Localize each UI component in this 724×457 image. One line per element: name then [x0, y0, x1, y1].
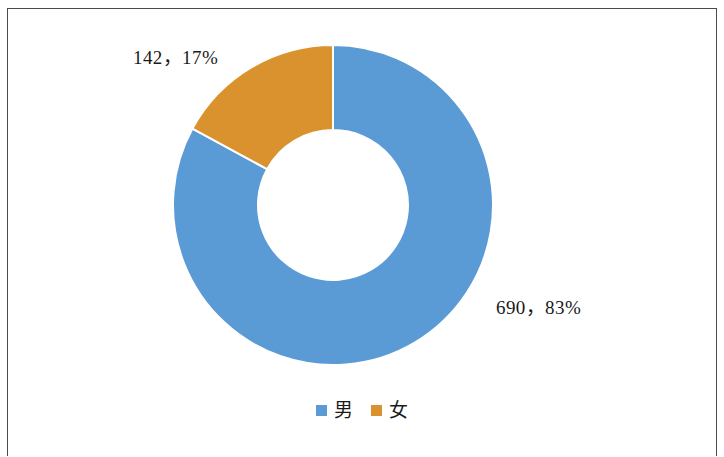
legend-swatch-female-icon	[371, 405, 382, 416]
legend-label-male: 男	[334, 401, 353, 420]
data-label-male: 690，83%	[496, 298, 581, 319]
legend-swatch-male-icon	[316, 405, 327, 416]
legend-item-female[interactable]: 女	[371, 401, 408, 420]
donut-center-hole	[258, 130, 408, 280]
data-label-female: 142，17%	[133, 48, 218, 69]
chart-plot-area: 142，17% 690，83% 男 女	[0, 0, 724, 457]
chart-figure: 142，17% 690，83% 男 女	[0, 0, 724, 457]
legend-item-male[interactable]: 男	[316, 401, 353, 420]
legend-label-female: 女	[389, 401, 408, 420]
donut-chart	[0, 0, 724, 457]
chart-legend: 男 女	[0, 401, 724, 420]
